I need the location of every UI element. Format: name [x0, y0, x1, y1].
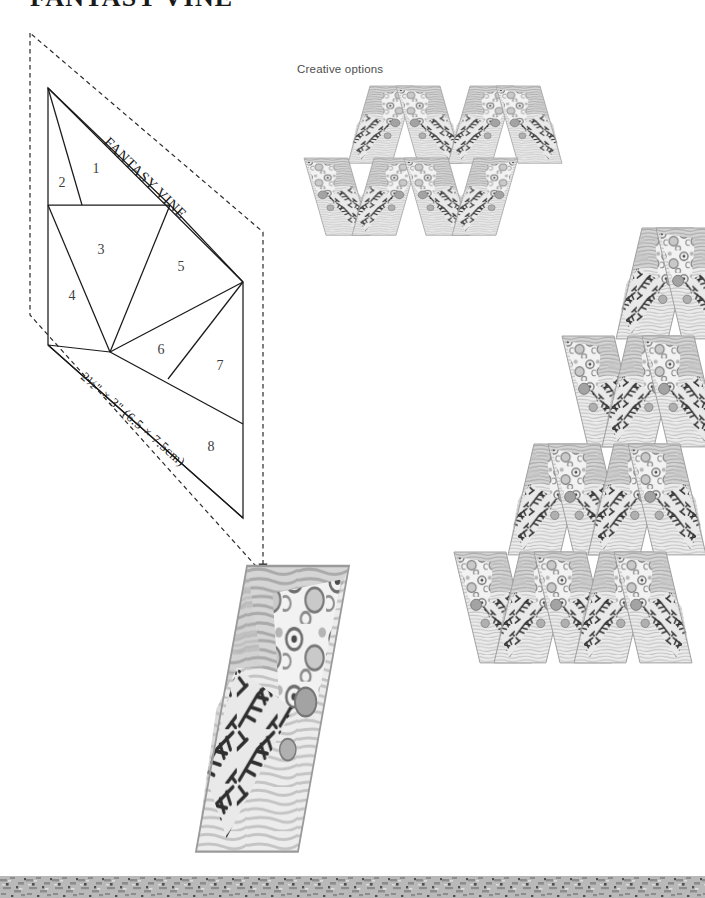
- single-block-layout: [0, 0, 705, 898]
- page-root: FANTASY VINE Creative options: [0, 0, 705, 898]
- bottom-border-strip: [0, 876, 705, 898]
